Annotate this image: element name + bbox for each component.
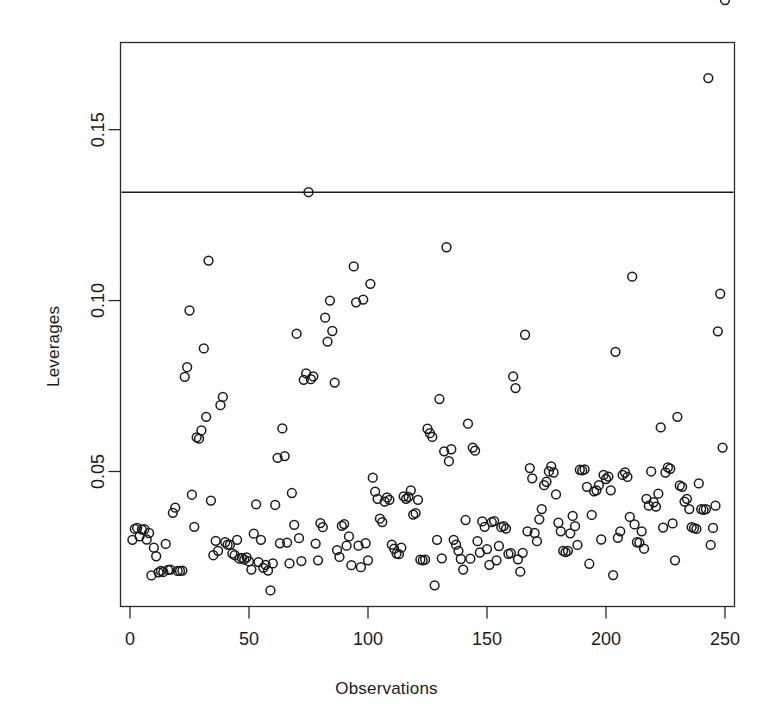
data-point (278, 424, 287, 433)
data-point (297, 557, 306, 566)
data-point (287, 489, 296, 498)
data-point (171, 503, 180, 512)
data-point (185, 306, 194, 315)
data-point (516, 567, 525, 576)
data-point (204, 256, 213, 265)
data-point (671, 556, 680, 565)
data-point (437, 554, 446, 563)
data-point (585, 559, 594, 568)
data-point (568, 512, 577, 521)
data-point (473, 537, 482, 546)
data-point (628, 272, 637, 281)
data-point (659, 523, 668, 532)
data-point (190, 522, 199, 531)
data-point (311, 539, 320, 548)
leverage-scatter-figure: 0501001502002500.050.100.15 Leverages Ob… (0, 0, 773, 726)
data-point (347, 561, 356, 570)
data-point (218, 393, 227, 402)
data-point (402, 494, 411, 503)
y-axis-tick-label: 0.10 (89, 283, 109, 318)
data-point (716, 289, 725, 298)
data-point (459, 565, 468, 574)
data-point (330, 378, 339, 387)
y-axis-title: Leverages (44, 306, 64, 387)
data-point (518, 548, 527, 557)
data-point (709, 523, 718, 532)
data-point (356, 563, 365, 572)
y-axis-tick-label: 0.05 (89, 454, 109, 489)
data-point (207, 496, 216, 505)
data-point (233, 535, 242, 544)
plot-frame (121, 43, 735, 607)
data-point (414, 495, 423, 504)
data-point (257, 535, 266, 544)
data-point (445, 457, 454, 466)
data-point (152, 552, 161, 561)
data-point (528, 474, 537, 483)
data-point (342, 541, 351, 550)
data-point (668, 519, 677, 528)
data-point (349, 262, 358, 271)
x-axis-tick-label: 150 (472, 629, 502, 649)
data-point (706, 541, 715, 550)
data-point (180, 372, 189, 381)
data-point (285, 559, 294, 568)
x-axis-tick-label: 200 (591, 629, 621, 649)
data-point (199, 344, 208, 353)
y-axis-tick-label: 0.15 (89, 112, 109, 147)
x-axis-title: Observations (0, 679, 773, 699)
data-point (433, 535, 442, 544)
data-point (326, 296, 335, 305)
data-point (533, 537, 542, 546)
data-point (521, 330, 530, 339)
data-point (711, 501, 720, 510)
data-point (509, 372, 518, 381)
data-point (340, 520, 349, 529)
data-point (685, 505, 694, 514)
data-point (535, 515, 544, 524)
data-point (211, 536, 220, 545)
data-point (216, 401, 225, 410)
data-point (571, 522, 580, 531)
data-point (461, 516, 470, 525)
data-point (647, 467, 656, 476)
data-point (552, 490, 561, 499)
data-point (464, 419, 473, 428)
x-axis-tick-label: 100 (353, 629, 383, 649)
data-point (368, 473, 377, 482)
data-point (168, 508, 177, 517)
data-point (673, 412, 682, 421)
data-point (364, 556, 373, 565)
data-point (525, 464, 534, 473)
data-point (266, 586, 275, 595)
data-point (442, 243, 451, 252)
data-point (188, 490, 197, 499)
data-point (609, 571, 618, 580)
data-point (292, 329, 301, 338)
data-point (597, 535, 606, 544)
data-point (492, 556, 501, 565)
data-point (161, 540, 170, 549)
data-point (556, 527, 565, 536)
data-point (721, 0, 730, 4)
data-point (483, 545, 492, 554)
data-point-group (128, 0, 729, 595)
data-point (252, 500, 261, 509)
data-point (314, 556, 323, 565)
x-axis-tick-label: 250 (710, 629, 740, 649)
data-point (537, 505, 546, 514)
data-point (345, 532, 354, 541)
data-point (328, 327, 337, 336)
data-point (478, 517, 487, 526)
data-point (587, 510, 596, 519)
data-point (573, 541, 582, 550)
data-point (271, 501, 280, 510)
data-point (197, 426, 206, 435)
data-point (183, 363, 192, 372)
data-point (704, 74, 713, 83)
data-point (295, 534, 304, 543)
data-point (323, 337, 332, 346)
data-point (247, 565, 256, 574)
data-point (640, 544, 649, 553)
data-point (713, 327, 722, 336)
